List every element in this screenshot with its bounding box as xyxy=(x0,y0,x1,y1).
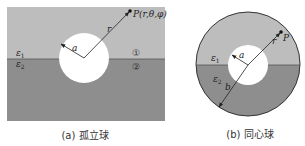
distance-r-label-b: r xyxy=(272,36,277,46)
panel-b-concentric-sphere: P r a b ε1 ε2 (b) 同心球 xyxy=(196,12,300,140)
point-p-label: P(r,θ,φ) xyxy=(132,9,167,19)
caption-a: (a) 孤立球 xyxy=(61,129,108,141)
inner-radius-a-label: a xyxy=(239,50,244,60)
outer-radius-b-label: b xyxy=(225,82,231,92)
panel-a-isolated-sphere: P(r,θ,φ) a r ε1 ε2 ① ② (a) 孤立球 xyxy=(7,7,167,141)
region-2-marker: ② xyxy=(132,62,140,72)
region-1-marker: ① xyxy=(132,48,140,58)
figure-canvas: P(r,θ,φ) a r ε1 ε2 ① ② (a) 孤立球 P r a b ε… xyxy=(0,0,305,146)
point-p-label-b: P xyxy=(282,33,290,43)
distance-r-label: r xyxy=(107,24,112,34)
point-p-dot xyxy=(128,9,132,13)
caption-b: (b) 同心球 xyxy=(226,128,273,140)
radius-a-label: a xyxy=(72,43,77,53)
